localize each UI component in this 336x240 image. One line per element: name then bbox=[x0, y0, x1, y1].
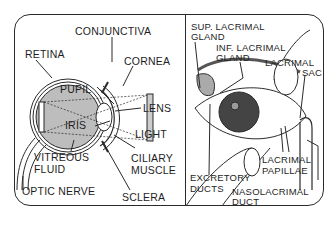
label-lens: LENS bbox=[143, 103, 171, 114]
label-sup-lacrimal-2: GLAND bbox=[191, 32, 225, 42]
label-ciliary-2: MUSCLE bbox=[131, 165, 176, 176]
label-light: LIGHT bbox=[135, 129, 167, 140]
label-vitreous-1: VITREOUS bbox=[34, 152, 89, 163]
label-excretory-2: DUCTS bbox=[190, 184, 224, 194]
label-cornea: CORNEA bbox=[124, 56, 170, 67]
label-lacrimal-papillae-2: PAPILLAE bbox=[262, 166, 308, 176]
label-lacrimal-papillae-1: LACRIMAL bbox=[262, 155, 311, 165]
label-ciliary-1: CILIARY bbox=[131, 153, 173, 164]
label-inf-lacrimal-2: GLAND bbox=[216, 53, 250, 63]
label-excretory-1: EXCRETORY bbox=[190, 173, 251, 183]
label-nasolacrimal-2: DUCT bbox=[232, 197, 259, 207]
label-retina: RETINA bbox=[25, 49, 65, 60]
label-optic-nerve: OPTIC NERVE bbox=[22, 186, 95, 197]
label-pupil: PUPIL bbox=[60, 84, 91, 95]
label-vitreous-2: FLUID bbox=[34, 164, 65, 175]
label-sclera: SCLERA bbox=[122, 192, 165, 203]
label-lacrimal-sac-2: SAC bbox=[302, 68, 322, 78]
label-conjunctiva: CONJUNCTIVA bbox=[75, 26, 151, 37]
label-iris: IRIS bbox=[65, 120, 86, 131]
